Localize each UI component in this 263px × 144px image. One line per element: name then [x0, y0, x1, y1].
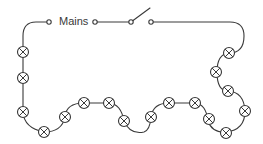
lamp-icon	[204, 114, 215, 125]
mains-label: Mains	[59, 16, 88, 27]
lamp-icon	[39, 127, 50, 138]
mains-terminal-right	[93, 20, 97, 24]
lamp-icon	[221, 128, 232, 139]
lamp-icon	[60, 112, 71, 123]
mains-terminal-left	[47, 20, 51, 24]
lamp-icon	[223, 86, 234, 97]
switch-pivot-terminal	[129, 20, 133, 24]
lamp-icon	[18, 73, 29, 84]
lamp-icon	[164, 98, 175, 109]
lamp-icon	[79, 98, 90, 109]
circuit-svg	[0, 0, 263, 144]
lamp-icon	[18, 47, 29, 58]
switch-arm	[131, 8, 150, 22]
lamp-icon	[211, 67, 222, 78]
circuit-diagram: Mains	[0, 0, 263, 144]
lamp-icon	[18, 107, 29, 118]
lamp-icon	[224, 48, 235, 59]
lamp-icon	[240, 106, 251, 117]
lamp-icon	[190, 98, 201, 109]
lamp-icon	[104, 98, 115, 109]
lamp-icon	[119, 116, 130, 127]
switch-contact-terminal	[149, 20, 153, 24]
lamp-icon	[146, 112, 157, 123]
